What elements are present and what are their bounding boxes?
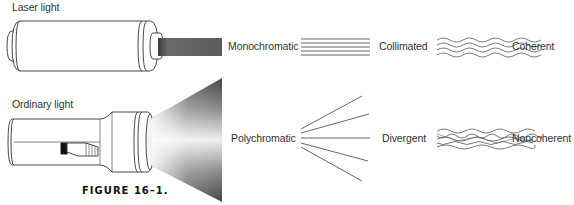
collimated-label: Collimated [379, 40, 428, 52]
monochromatic-label: Monochromatic [228, 40, 298, 52]
flashlight-icon [8, 112, 154, 172]
figure-caption: FIGURE 16–1. [82, 185, 169, 196]
coherent-label: Coherent [512, 40, 554, 52]
polychromatic-label: Polychromatic [231, 132, 296, 144]
divergent-lines-icon [301, 96, 370, 181]
laser-beam [158, 38, 222, 56]
divergent-label: Divergent [382, 132, 426, 144]
light-cone [152, 78, 222, 202]
laser-device-icon [7, 21, 163, 71]
ordinary-light-label: Ordinary light [12, 98, 73, 110]
figure-illustration [0, 0, 574, 205]
laser-light-label: Laser light [12, 1, 59, 13]
noncoherent-label: Noncoherent [512, 132, 571, 144]
collimated-lines-icon [301, 39, 370, 55]
